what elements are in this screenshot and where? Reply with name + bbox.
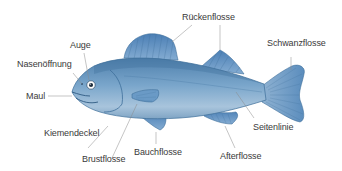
label-rueckenflosse: Rückenflosse: [182, 12, 235, 22]
label-auge: Auge: [70, 40, 91, 50]
label-schwanzflosse: Schwanzflosse: [267, 38, 326, 48]
label-seitenlinie: Seitenlinie: [253, 122, 293, 132]
fish-anatomy-diagram: Rückenflosse Auge Schwanzflosse Nasenöff…: [0, 0, 342, 171]
dorsal-fin-front: [124, 34, 178, 60]
label-nasenoeffnung: Nasenöffnung: [17, 59, 72, 69]
eye: [87, 81, 95, 89]
label-bauchflosse: Bauchflosse: [134, 147, 182, 157]
tail-fin: [262, 65, 304, 122]
label-kiemendeckel: Kiemendeckel: [44, 128, 99, 138]
label-maul: Maul: [26, 91, 45, 101]
label-brustflosse: Brustflosse: [82, 154, 125, 164]
fish-illustration: [0, 0, 342, 171]
label-afterflosse: Afterflosse: [220, 151, 261, 161]
